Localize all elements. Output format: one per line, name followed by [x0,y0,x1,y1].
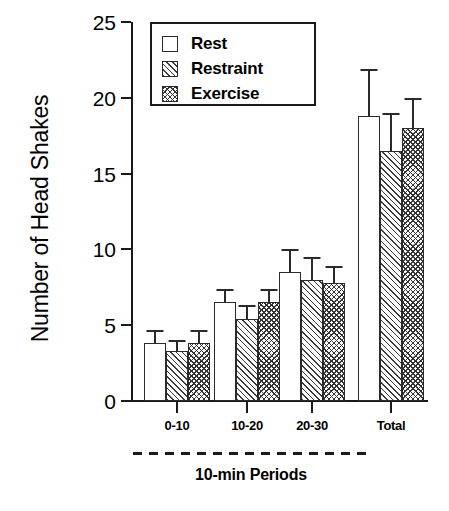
legend-label-rest: Rest [191,34,227,54]
errorbar-cap-rest-20-30 [282,249,299,251]
errorbar-stem-rest-Total [368,69,370,116]
x-axis-bracket-label: 10-min Periods [133,466,369,484]
errorbar-cap-rest-10-20 [217,289,234,291]
errorbar-cap-exercise-10-20 [261,289,278,291]
y-tick-15 [121,173,131,175]
legend-item-exercise: Exercise [162,81,314,106]
chart-legend: Rest Restraint Exercise [150,22,316,106]
errorbar-cap-restraint-Total [383,113,400,115]
legend-swatch-restraint-icon [162,61,178,77]
errorbar-stem-restraint-10-20 [246,305,248,319]
x-tick-20-30 [311,402,313,413]
legend-label-exercise: Exercise [191,84,259,104]
y-tick-label-25: 25 [0,12,116,33]
errorbar-stem-exercise-0-10 [198,330,200,344]
y-tick-label-15: 15 [0,163,116,184]
bar-restraint-10-20 [236,319,258,401]
y-tick-label-5: 5 [0,315,116,336]
legend-item-rest: Rest [162,31,314,56]
errorbar-stem-restraint-20-30 [311,257,313,280]
bar-exercise-20-30 [323,283,345,401]
bar-exercise-Total [402,128,424,401]
x-tick-10-20 [246,402,248,413]
errorbar-cap-rest-Total [361,69,378,71]
errorbar-cap-restraint-10-20 [239,305,256,307]
bar-rest-Total [358,116,380,401]
x-tick-label-Total: Total [377,418,406,433]
bar-exercise-10-20 [258,302,280,401]
y-tick-20 [121,97,131,99]
y-tick-label-0: 0 [0,391,116,412]
y-tick-0 [121,400,131,402]
bar-restraint-Total [380,151,402,401]
legend-swatch-exercise-icon [162,86,178,102]
errorbar-stem-exercise-10-20 [268,289,270,303]
errorbar-stem-exercise-Total [412,98,414,128]
x-tick-label-20-30: 20-30 [296,418,328,433]
errorbar-cap-restraint-20-30 [304,257,321,259]
errorbar-stem-rest-20-30 [289,249,291,272]
bar-rest-10-20 [214,302,236,401]
x-tick-label-10-20: 10-20 [231,418,263,433]
errorbar-cap-rest-0-10 [147,330,164,332]
x-tick-Total [390,402,392,413]
errorbar-cap-exercise-Total [405,98,422,100]
bar-rest-0-10 [144,343,166,401]
chart-figure: Number of Head Shakes 0510152025 0-1010-… [0,0,449,511]
y-tick-label-20: 20 [0,87,116,108]
errorbar-stem-restraint-Total [390,113,392,151]
bar-restraint-0-10 [166,351,188,401]
y-tick-label-10: 10 [0,239,116,260]
period-bracket-dashed-line [133,452,369,455]
bar-exercise-0-10 [188,343,210,401]
errorbar-stem-exercise-20-30 [333,266,335,283]
errorbar-cap-exercise-0-10 [191,330,208,332]
legend-label-restraint: Restraint [191,59,263,79]
errorbar-stem-rest-0-10 [154,330,156,344]
legend-swatch-rest-icon [162,36,178,52]
errorbar-stem-rest-10-20 [224,289,226,303]
legend-item-restraint: Restraint [162,56,314,81]
y-tick-5 [121,324,131,326]
errorbar-cap-exercise-20-30 [326,266,343,268]
y-axis-title: Number of Head Shakes [27,29,54,409]
x-tick-label-0-10: 0-10 [165,418,190,433]
bar-rest-20-30 [279,272,301,401]
y-tick-25 [121,21,131,23]
errorbar-cap-restraint-0-10 [169,340,186,342]
bar-restraint-20-30 [301,280,323,401]
x-tick-0-10 [176,402,178,413]
y-tick-10 [121,248,131,250]
